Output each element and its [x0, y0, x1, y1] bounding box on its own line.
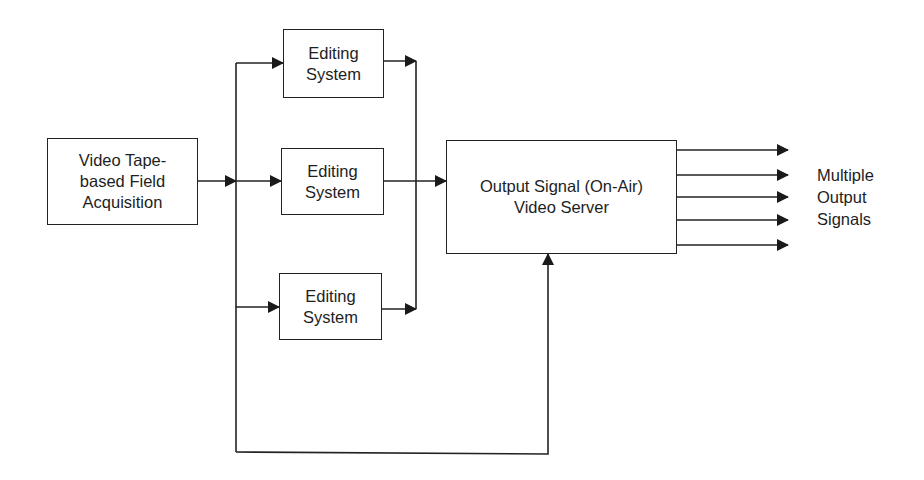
- outputs-label: Multiple Output Signals: [817, 164, 874, 230]
- editor-node-top: Editing System: [283, 29, 384, 98]
- source-label: Video Tape- based Field Acquisition: [79, 150, 166, 213]
- broadcast-workflow-diagram: Video Tape- based Field Acquisition Edit…: [0, 0, 924, 480]
- server-label: Output Signal (On-Air) Video Server: [480, 176, 643, 218]
- editor-node-middle: Editing System: [281, 148, 384, 215]
- editor-bottom-label: Editing System: [303, 286, 358, 328]
- editor-top-label: Editing System: [306, 43, 361, 85]
- editor-middle-label: Editing System: [305, 161, 360, 203]
- editor-node-bottom: Editing System: [279, 273, 382, 340]
- source-node: Video Tape- based Field Acquisition: [47, 138, 198, 225]
- server-node: Output Signal (On-Air) Video Server: [446, 140, 677, 254]
